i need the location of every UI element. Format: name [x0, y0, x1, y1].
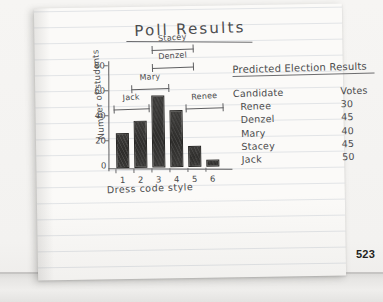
- y-tick-mark-60: [104, 90, 108, 91]
- bracket-cap-right: [193, 63, 194, 71]
- bracket-line: [131, 88, 169, 90]
- bracket-label-jack: Jack: [122, 92, 140, 102]
- bracket-line: [186, 107, 224, 109]
- bracket-label-mary: Mary: [139, 72, 160, 82]
- bracket-jack: Jack: [113, 101, 149, 102]
- y-axis-line: [108, 61, 109, 171]
- cell-votes: 50: [294, 149, 383, 165]
- bar-chart: Number of students 80 60 40 20 0: [79, 51, 241, 203]
- bar-4: [169, 110, 183, 168]
- bar-1: [116, 133, 130, 168]
- y-tick-mark-20: [105, 140, 109, 141]
- y-tick-label-20: 20: [92, 136, 106, 145]
- bracket-denzel: Denzel: [152, 60, 194, 61]
- cell-candidate: Jack: [235, 151, 295, 166]
- bracket-line: [152, 67, 194, 69]
- bar-2: [134, 120, 148, 168]
- bracket-label-denzel: Denzel: [158, 50, 187, 61]
- bracket-cap-right: [148, 104, 149, 112]
- x-tick-label-6: 6: [207, 174, 219, 184]
- page-number: 523: [356, 248, 375, 260]
- x-tick-mark-4: [169, 168, 170, 172]
- x-tick-mark-6: [205, 168, 206, 172]
- bar-6: [206, 159, 219, 167]
- notebook-page: Poll Results Number of students 80 60 40…: [34, 4, 346, 281]
- bar-5: [188, 146, 201, 167]
- predicted-results-table: Candidate Votes Renee 30 Denzel 45 Mary: [233, 83, 383, 166]
- y-tick-label-0: 0: [92, 161, 106, 170]
- y-tick-label-40: 40: [92, 111, 106, 120]
- bracket-renee: Renee: [185, 100, 223, 101]
- bracket-mary: Mary: [131, 81, 169, 82]
- bracket-label-renee: Renee: [191, 91, 218, 102]
- bar-3: [151, 95, 165, 168]
- bracket-cap-right: [168, 84, 169, 92]
- y-tick-mark-80: [104, 65, 108, 66]
- bracket-cap-right: [222, 103, 223, 111]
- x-tick-mark-2: [133, 169, 134, 173]
- x-tick-mark-1: [115, 169, 116, 173]
- y-tick-label-60: 60: [91, 86, 105, 95]
- y-tick-mark-40: [105, 115, 109, 116]
- bracket-label-stacey: Stacey: [158, 32, 187, 43]
- predicted-results-block: Predicted Election Results Candidate Vot…: [232, 60, 383, 166]
- bracket-line: [114, 108, 150, 110]
- x-axis-label: Dress code style: [107, 181, 194, 195]
- chart-plot-area: 80 60 40 20 0 1 2: [107, 63, 229, 169]
- x-tick-mark-3: [151, 169, 152, 173]
- paper-sheet: Poll Results Number of students 80 60 40…: [34, 4, 346, 281]
- x-tick-mark-5: [187, 168, 188, 172]
- y-tick-label-80: 80: [91, 61, 105, 70]
